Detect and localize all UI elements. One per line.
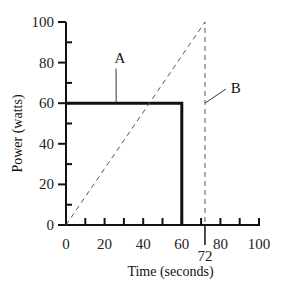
- x-tick-label: 20: [97, 236, 112, 252]
- y-tick-label: 40: [39, 136, 54, 152]
- plot-area: 02040608010002040608010072ABTime (second…: [10, 14, 270, 280]
- x-72-label: 72: [197, 248, 212, 264]
- chart: 02040608010002040608010072ABTime (second…: [0, 0, 282, 292]
- x-tick-label: 60: [174, 236, 189, 252]
- x-tick-label: 100: [248, 236, 271, 252]
- x-tick-label: 0: [62, 236, 70, 252]
- x-axis-title: Time (seconds): [127, 264, 214, 280]
- callout-a-label: A: [115, 50, 126, 66]
- y-tick-label: 60: [39, 95, 54, 111]
- y-axis-title: Power (watts): [10, 94, 26, 172]
- y-tick-label: 80: [39, 55, 54, 71]
- y-tick-label: 20: [39, 176, 54, 192]
- series-a-line: [66, 103, 182, 225]
- y-tick-label: 0: [47, 217, 55, 233]
- x-tick-label: 40: [136, 236, 151, 252]
- x-tick-label: 80: [213, 236, 228, 252]
- callout-b-leader: [205, 89, 226, 103]
- callout-b-label: B: [231, 80, 241, 96]
- series-b-line: [66, 22, 205, 225]
- y-tick-label: 100: [32, 14, 55, 30]
